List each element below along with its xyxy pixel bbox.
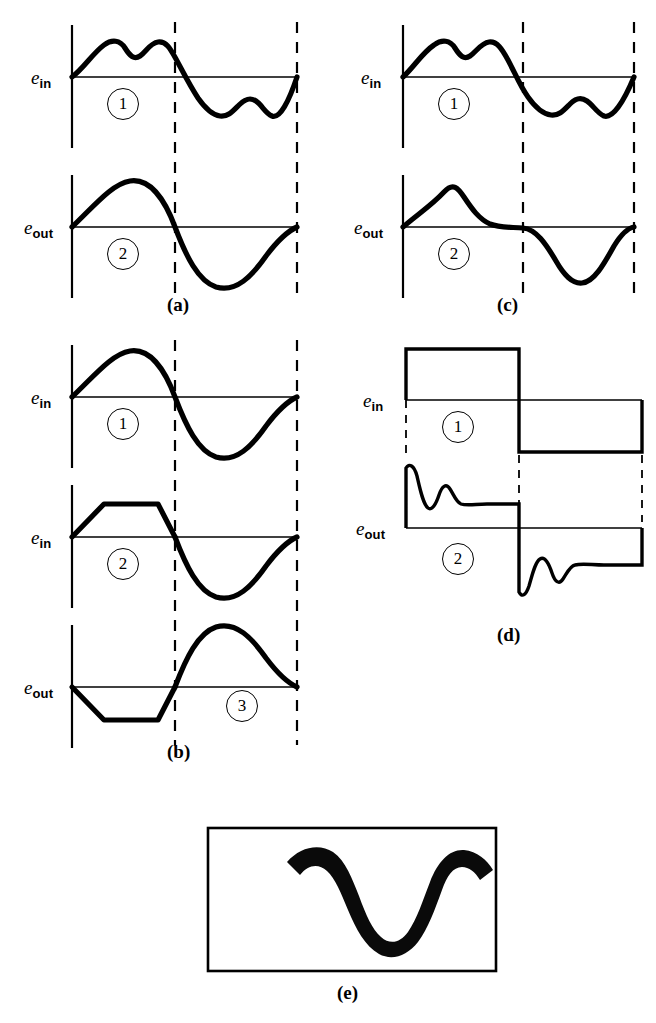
panel-a-trace2-badge: 2 (107, 238, 139, 270)
waveform-figure-canvas (0, 0, 656, 1023)
panel-b (72, 340, 297, 748)
panel-b-trace2-wave-negative (175, 537, 297, 598)
panel-c-trace1-badge: 1 (438, 88, 470, 120)
panel-c-trace2-signal-label: eout (354, 218, 383, 240)
panel-b-trace1-signal-label: ein (31, 388, 51, 410)
panel-b-trace3-badge: 3 (226, 690, 258, 722)
panel-d-trace1-badge: 1 (442, 411, 474, 443)
panel-a-trace1-wave (72, 41, 297, 116)
panel-a-trace1-signal-label: ein (31, 68, 51, 90)
panel-b-trace3-signal-label: eout (24, 678, 53, 700)
panel-d-trace2-badge: 2 (442, 543, 474, 575)
figure-root: ein eout 1 2 (a) ein eout 1 2 (c) ein ei… (0, 0, 656, 1023)
panel-b-trace1-badge: 1 (107, 408, 139, 440)
panel-d-trace2-signal-label: eout (356, 519, 385, 541)
panel-b-trace2-badge: 2 (107, 548, 139, 580)
panel-b-trace2-wave-positive (72, 504, 175, 537)
panel-a (72, 22, 297, 300)
panel-d-trace1-signal-label: ein (363, 391, 383, 413)
panel-b-caption: (b) (167, 742, 190, 761)
panel-a-trace2-wave (72, 181, 297, 288)
panel-b-trace3-wave-positive (175, 626, 297, 687)
panel-e-caption: (e) (337, 983, 358, 1002)
panel-a-trace2-signal-label: eout (24, 218, 53, 240)
panel-b-trace1-wave (72, 351, 297, 458)
panel-d-caption: (d) (497, 625, 520, 644)
panel-d-trace2-wave (406, 465, 642, 595)
panel-c-caption: (c) (497, 295, 518, 314)
panel-e (208, 828, 496, 971)
panel-a-caption: (a) (167, 295, 189, 314)
panel-c-trace2-wave (403, 187, 634, 283)
panel-a-trace1-badge: 1 (107, 88, 139, 120)
panel-b-trace2-signal-label: ein (31, 528, 51, 550)
panel-b-trace3-wave-negative (72, 687, 175, 720)
panel-c-trace2-badge: 2 (438, 238, 470, 270)
panel-c-trace1-signal-label: ein (361, 68, 381, 90)
